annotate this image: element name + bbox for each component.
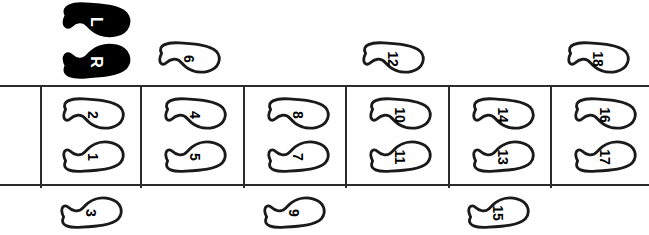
footprint-left-4: 4 bbox=[159, 98, 231, 132]
footprint-shape-icon bbox=[562, 42, 634, 76]
footprint-shape-icon bbox=[462, 196, 534, 230]
cell-divider-3 bbox=[243, 87, 245, 188]
footprint-right-11: 11 bbox=[364, 140, 436, 174]
cell-divider-2 bbox=[140, 87, 142, 188]
footprint-right-17: 17 bbox=[569, 140, 641, 174]
footprint-right-r: R bbox=[57, 43, 135, 80]
footprint-shape-icon bbox=[357, 42, 429, 76]
footprint-shape-icon bbox=[262, 98, 334, 132]
footprint-left-14: 14 bbox=[467, 98, 539, 132]
cell-divider-5 bbox=[448, 87, 450, 188]
footprint-left-8: 8 bbox=[262, 98, 334, 132]
footprint-shape-icon bbox=[364, 140, 436, 174]
footprint-right-13: 13 bbox=[467, 140, 539, 174]
footprint-diagram: LR612182145871011141316173915 bbox=[0, 0, 649, 235]
footprint-shape-icon bbox=[57, 43, 135, 80]
footprint-left-6: 6 bbox=[153, 42, 225, 76]
cell-divider-6 bbox=[550, 87, 552, 188]
footprint-left-10: 10 bbox=[364, 98, 436, 132]
footprint-shape-icon bbox=[364, 98, 436, 132]
footprint-left-12: 12 bbox=[357, 42, 429, 76]
footprint-right-3: 3 bbox=[55, 196, 127, 230]
footprint-left-16: 16 bbox=[569, 98, 641, 132]
footprint-shape-icon bbox=[57, 3, 135, 40]
footprint-shape-icon bbox=[159, 140, 231, 174]
footprint-shape-icon bbox=[467, 98, 539, 132]
footprint-shape-icon bbox=[467, 140, 539, 174]
footprint-shape-icon bbox=[57, 98, 129, 132]
footprint-shape-icon bbox=[569, 98, 641, 132]
footprint-shape-icon bbox=[569, 140, 641, 174]
footprint-shape-icon bbox=[159, 98, 231, 132]
footprint-left-l: L bbox=[57, 3, 135, 40]
footprint-right-7: 7 bbox=[262, 140, 334, 174]
cell-divider-1 bbox=[40, 87, 42, 188]
footprint-shape-icon bbox=[55, 196, 127, 230]
footprint-right-1: 1 bbox=[57, 140, 129, 174]
footprint-left-18: 18 bbox=[562, 42, 634, 76]
footprint-right-9: 9 bbox=[258, 196, 330, 230]
footprint-shape-icon bbox=[262, 140, 334, 174]
footprint-right-15: 15 bbox=[462, 196, 534, 230]
footprint-left-2: 2 bbox=[57, 98, 129, 132]
footprint-right-5: 5 bbox=[159, 140, 231, 174]
cell-divider-4 bbox=[345, 87, 347, 188]
footprint-shape-icon bbox=[153, 42, 225, 76]
footprint-shape-icon bbox=[258, 196, 330, 230]
footprint-shape-icon bbox=[57, 140, 129, 174]
